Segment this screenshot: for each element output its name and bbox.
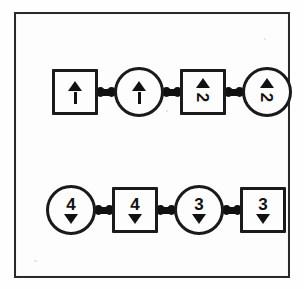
node-glyphs: 3 — [256, 196, 270, 224]
link-dumbbell — [224, 205, 240, 215]
node-digit: 2 — [259, 93, 276, 102]
node-bottom-4-square[interactable]: 3 — [240, 187, 286, 233]
scan-speckle — [34, 260, 37, 262]
arrow-down-icon — [192, 214, 206, 224]
node-digit: 4 — [130, 196, 139, 213]
node-top-1-square[interactable] — [52, 69, 98, 115]
link-dumbbell — [226, 87, 242, 97]
node-glyphs: 4 — [64, 196, 78, 224]
arrow-up-icon — [196, 78, 210, 88]
node-digit: 4 — [66, 196, 75, 213]
arrow-down-icon — [256, 214, 270, 224]
arrow-down-icon — [128, 214, 142, 224]
arrow-up-icon — [132, 81, 146, 91]
node-top-3-square[interactable]: 2 — [180, 69, 226, 115]
node-top-2-circle[interactable] — [114, 67, 164, 117]
node-bottom-3-circle[interactable]: 3 — [174, 185, 224, 235]
bottom-chain-row: 4 4 — [46, 182, 286, 238]
digit-1-stem — [74, 92, 77, 104]
node-glyphs: 2 — [196, 78, 210, 106]
scan-speckle — [166, 110, 168, 112]
node-top-4-circle[interactable]: 2 — [242, 67, 292, 117]
digit-1-stem — [138, 92, 141, 104]
node-glyphs — [132, 81, 146, 104]
node-glyphs: 3 — [192, 196, 206, 224]
node-digit: 2 — [195, 93, 212, 102]
arrow-down-icon — [64, 214, 78, 224]
arrow-up-icon — [68, 81, 82, 91]
scan-speckle — [264, 38, 266, 40]
node-bottom-2-square[interactable]: 4 — [112, 187, 158, 233]
node-glyphs: 4 — [128, 196, 142, 224]
diagram-canvas: 2 2 4 — [0, 0, 304, 289]
link-dumbbell — [96, 205, 112, 215]
node-digit: 3 — [194, 196, 203, 213]
node-digit: 3 — [258, 196, 267, 213]
top-chain-row: 2 2 — [52, 64, 292, 120]
node-glyphs — [68, 81, 82, 104]
link-dumbbell — [164, 87, 180, 97]
node-glyphs: 2 — [260, 78, 274, 106]
link-dumbbell — [98, 87, 114, 97]
link-dumbbell — [158, 205, 174, 215]
node-bottom-1-circle[interactable]: 4 — [46, 185, 96, 235]
arrow-up-icon — [260, 78, 274, 88]
diagram-frame: 2 2 4 — [14, 12, 290, 278]
